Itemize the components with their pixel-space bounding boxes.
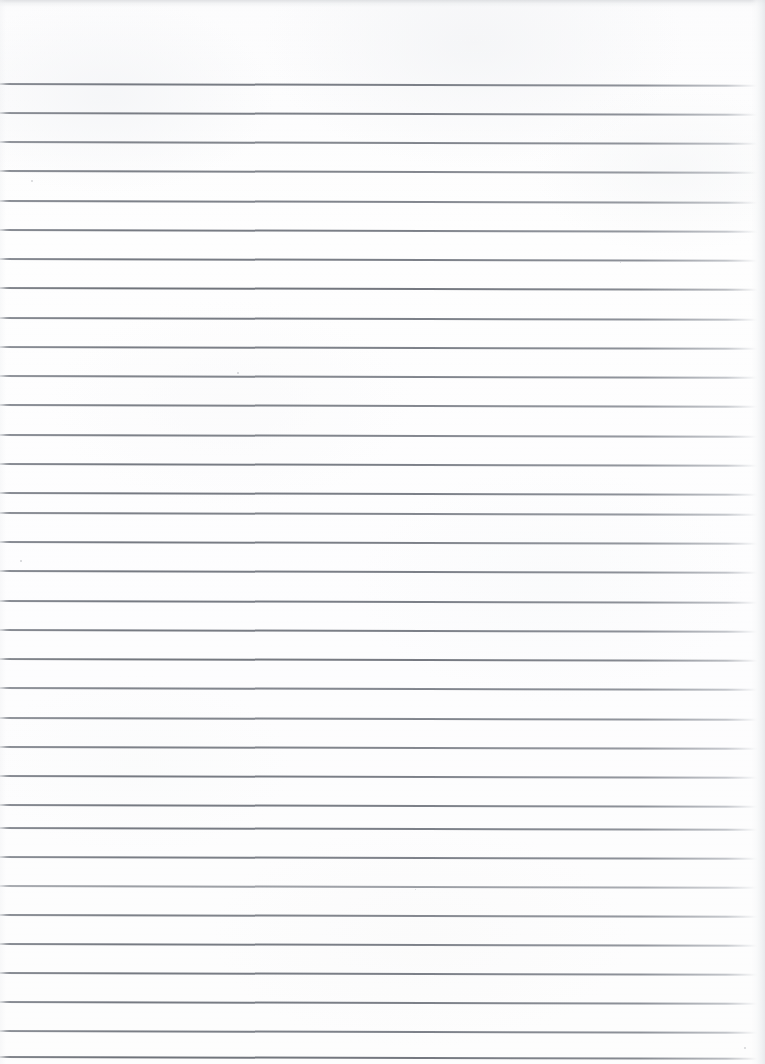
ruled-line bbox=[0, 746, 757, 749]
ruled-line bbox=[0, 83, 757, 86]
ruled-line bbox=[0, 512, 757, 515]
ruled-line bbox=[0, 112, 757, 115]
scanned-page bbox=[0, 0, 765, 1064]
ruled-line bbox=[0, 463, 757, 466]
ruled-line bbox=[0, 717, 757, 720]
ruled-line bbox=[0, 570, 757, 573]
ruled-line bbox=[0, 885, 757, 888]
ruled-line bbox=[0, 658, 757, 662]
ruled-line bbox=[0, 229, 757, 232]
ruled-line bbox=[0, 600, 757, 603]
ruled-line bbox=[0, 1001, 757, 1004]
ruled-line bbox=[0, 434, 757, 437]
ruled-line bbox=[0, 492, 757, 495]
ruled-line bbox=[0, 629, 757, 632]
ruled-line bbox=[0, 943, 757, 946]
ruled-line bbox=[0, 141, 757, 144]
ruled-line bbox=[0, 317, 757, 320]
ruled-line bbox=[0, 804, 757, 807]
ruled-line bbox=[0, 827, 757, 830]
ruled-line bbox=[0, 346, 757, 349]
ruled-line bbox=[0, 914, 757, 917]
ruled-line bbox=[0, 200, 757, 203]
ruled-line bbox=[0, 856, 757, 859]
ruled-line bbox=[0, 775, 757, 778]
ruled-line bbox=[0, 404, 757, 407]
ruled-line bbox=[0, 1030, 757, 1033]
ruled-line bbox=[0, 375, 757, 378]
ruled-line bbox=[0, 541, 757, 544]
ruled-line bbox=[0, 687, 757, 690]
ruled-lines-layer bbox=[0, 0, 765, 1064]
ruled-line bbox=[0, 287, 757, 291]
ruled-line bbox=[0, 170, 757, 173]
ruled-line bbox=[0, 258, 757, 261]
ruled-line bbox=[0, 972, 757, 975]
ruled-line bbox=[0, 1056, 757, 1060]
